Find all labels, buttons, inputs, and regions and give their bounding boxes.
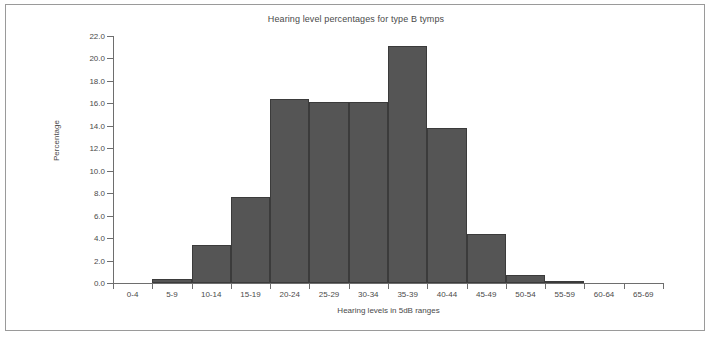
x-axis-tick-label: 65-69 [624,290,663,299]
y-axis-tick [107,148,113,149]
x-axis-tick-label: 0-4 [113,290,152,299]
y-axis-tick [107,216,113,217]
y-axis-tick [107,238,113,239]
x-axis-tick [427,284,428,289]
x-axis-tick [231,284,232,289]
y-axis-line [113,36,114,284]
y-axis-tick-label: 4.0 [59,234,105,243]
y-axis-tick [107,103,113,104]
y-axis-tick [107,81,113,82]
x-axis-tick-label: 5-9 [152,290,191,299]
bar [467,234,506,283]
x-axis-tick [113,284,114,289]
y-axis-tick-label: 0.0 [59,279,105,288]
y-axis-tick-label: 22.0 [59,32,105,41]
plot-area: 0.02.04.06.08.010.012.014.016.018.020.02… [6,5,706,332]
bar [349,102,388,283]
y-axis-title: Percentage [52,120,61,161]
x-axis-tick-label: 25-29 [309,290,348,299]
y-axis-tick [107,36,113,37]
y-axis-tick-label: 16.0 [59,99,105,108]
y-axis-tick-label: 8.0 [59,189,105,198]
x-axis-tick-label: 35-39 [388,290,427,299]
y-axis-tick [107,58,113,59]
bar [270,99,309,283]
x-axis-tick-label: 55-59 [545,290,584,299]
bar [152,279,191,283]
x-axis-tick-label: 40-44 [427,290,466,299]
y-axis-tick-label: 18.0 [59,77,105,86]
y-axis-tick-label: 14.0 [59,122,105,131]
y-axis-tick [107,126,113,127]
y-axis-tick-label: 6.0 [59,212,105,221]
x-axis-tick-label: 20-24 [270,290,309,299]
y-axis-tick [107,193,113,194]
bar [388,46,427,283]
x-axis-tick-label: 15-19 [231,290,270,299]
x-axis-tick [152,284,153,289]
x-axis-tick [192,284,193,289]
x-axis-tick [506,284,507,289]
x-axis-tick [545,284,546,289]
y-axis-tick [107,171,113,172]
y-axis-tick-label: 12.0 [59,144,105,153]
x-axis-tick-label: 50-54 [506,290,545,299]
y-axis-tick-label: 20.0 [59,54,105,63]
x-axis-tick [349,284,350,289]
x-axis-tick [309,284,310,289]
x-axis-title: Hearing levels in 5dB ranges [113,306,664,315]
x-axis-tick [584,284,585,289]
bar [309,102,348,283]
y-axis-tick [107,261,113,262]
bar [506,275,545,283]
x-axis-tick-label: 45-49 [467,290,506,299]
x-axis-tick [663,284,664,289]
bar [192,245,231,283]
x-axis-tick [388,284,389,289]
y-axis-tick-label: 2.0 [59,257,105,266]
x-axis-tick [624,284,625,289]
x-axis-tick-label: 60-64 [584,290,623,299]
x-axis-tick [270,284,271,289]
figure-frame: Hearing level percentages for type B tym… [5,4,705,331]
x-axis-tick-label: 10-14 [192,290,231,299]
x-axis-tick-label: 30-34 [349,290,388,299]
x-axis-tick [467,284,468,289]
y-axis-tick-label: 10.0 [59,167,105,176]
bar [545,281,584,283]
bar [231,197,270,283]
bar [427,128,466,283]
